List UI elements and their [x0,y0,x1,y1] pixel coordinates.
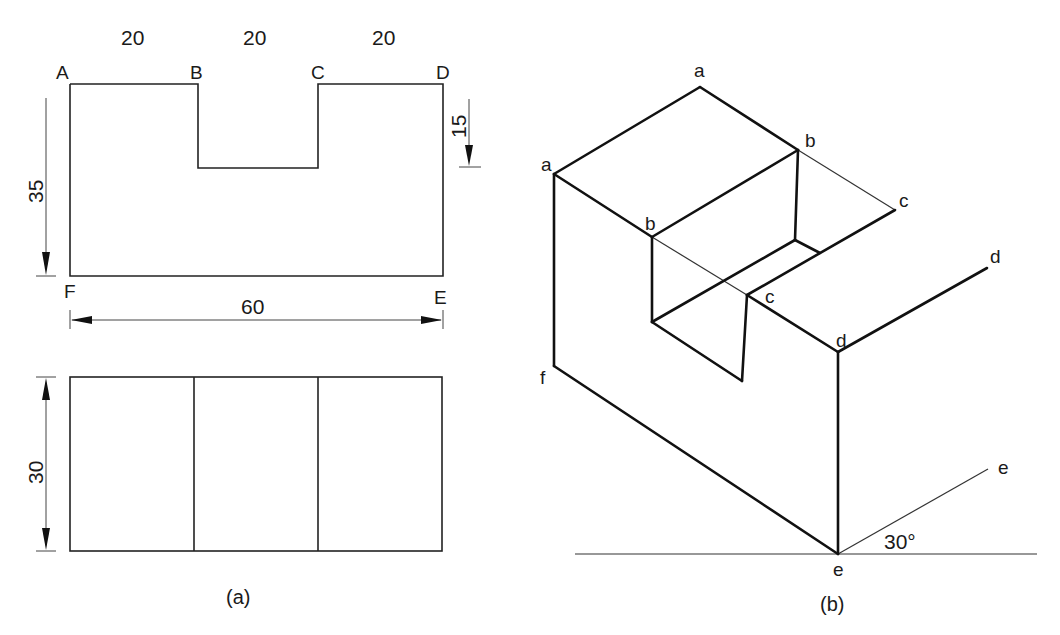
label-C: C [311,62,325,83]
front-view-outline [70,84,443,276]
dim-height-value: 35 [24,180,47,203]
vertex-c-right: c [899,190,909,211]
dim-top-3: 20 [372,26,395,49]
caption-b: (b) [820,593,844,615]
vertex-c-front: c [765,286,775,307]
dim-width-60: 60 [70,295,443,329]
dim-slot-15: 15 [447,99,481,167]
vertex-b-right: b [805,130,816,151]
dim-width-value: 60 [241,295,264,318]
angle-label: 30° [884,530,916,553]
dim-top-1: 20 [121,26,144,49]
label-D: D [436,62,450,83]
vertex-a-left: a [541,154,552,175]
dim-depth-value: 30 [24,461,47,484]
label-A: A [56,62,69,83]
panel-a: A B C D F E 20 20 20 35 15 [24,26,481,608]
construction-line-b-c-front [652,237,747,295]
label-F: F [64,281,76,302]
caption-a: (a) [226,586,250,608]
vertex-a-top: a [694,60,705,81]
dim-depth-30: 30 [24,377,56,551]
dim-slot-value: 15 [447,115,470,138]
panel-b: a a b b c c d d e e f 30° (b) [540,60,1037,615]
dim-top-2: 20 [243,26,266,49]
isometric-object [554,87,987,554]
vertex-d-right: d [990,246,1001,267]
vertex-f: f [540,367,546,388]
vertex-d-front: d [836,330,847,351]
top-view [70,377,442,551]
vertex-b-left: b [645,213,656,234]
vertex-e-right: e [998,457,1009,478]
drawing-canvas: A B C D F E 20 20 20 35 15 [0,0,1060,635]
construction-line-b-c-right [798,150,895,210]
dim-height-35: 35 [24,98,56,276]
label-E: E [434,287,447,308]
label-B: B [190,62,203,83]
vertex-e-bottom: e [833,559,844,580]
